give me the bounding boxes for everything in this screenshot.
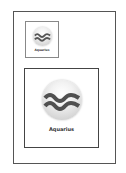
thumbnail-large[interactable]: Aquarius [24, 68, 99, 148]
thumbnail-small[interactable]: Aquarius [25, 21, 59, 58]
aquarius-icon [42, 80, 82, 120]
aquarius-icon [33, 27, 52, 46]
icon-label: Aquarius [26, 48, 58, 52]
icon-label: Aquarius [25, 126, 98, 132]
